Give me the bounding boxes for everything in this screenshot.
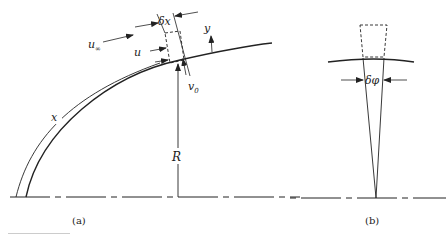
u-label: u (134, 46, 141, 59)
u-inf-arrow (103, 35, 133, 42)
control-volume-element-b (360, 25, 387, 57)
y-label: y (203, 22, 211, 35)
x-coordinate-line (16, 63, 160, 197)
body-surface-curve (26, 43, 272, 197)
u-inf-label: u∞ (88, 38, 101, 53)
delta-x-label: δx (158, 15, 172, 28)
delta-x-arrow-right (175, 12, 198, 16)
caption-a: (a) (72, 215, 86, 226)
y-arrow (211, 36, 212, 52)
delta-phi-label: δφ (365, 74, 380, 87)
panel-a: x R δx u∞ u v0 y (a) (8, 12, 300, 234)
wall-u-arrow (155, 60, 168, 62)
surface-arc-b (328, 59, 414, 62)
v0-arrow (183, 59, 186, 75)
x-label: x (51, 111, 58, 124)
u-arrow (150, 48, 166, 51)
radius-label: R (171, 150, 181, 164)
control-volume-element (165, 31, 184, 63)
delta-x-arrow-left (135, 23, 158, 27)
panel-b: δφ (b) (290, 25, 446, 226)
delta-x-extension-right (173, 13, 190, 76)
boundary-layer-diagram: x R δx u∞ u v0 y (a) (0, 0, 448, 234)
v0-label: v0 (188, 80, 199, 95)
caption-b: (b) (365, 215, 379, 226)
